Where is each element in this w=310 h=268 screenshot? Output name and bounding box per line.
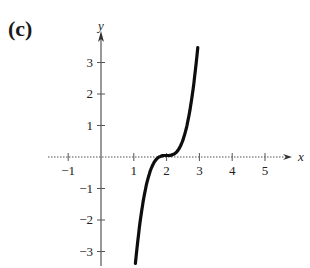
- cubic-function-plot: xy−112345−3−2−1123: [0, 0, 310, 268]
- x-axis-label: x: [297, 149, 304, 164]
- y-tick-label: 2: [87, 86, 94, 101]
- x-tick-label: 5: [262, 163, 269, 178]
- y-tick-label: 1: [87, 118, 94, 133]
- y-tick-label: 3: [87, 55, 94, 70]
- x-tick-label: 1: [131, 163, 138, 178]
- y-tick-label: −3: [79, 244, 93, 259]
- y-tick-label: −1: [79, 181, 93, 196]
- x-tick-label: 2: [163, 163, 170, 178]
- x-tick-label: 3: [196, 163, 203, 178]
- x-axis-arrow-icon: [283, 154, 292, 160]
- y-tick-label: −2: [79, 212, 93, 227]
- x-tick-label: −1: [61, 163, 75, 178]
- y-axis-label: y: [96, 18, 104, 33]
- function-curve: [135, 48, 197, 264]
- x-tick-label: 4: [229, 163, 236, 178]
